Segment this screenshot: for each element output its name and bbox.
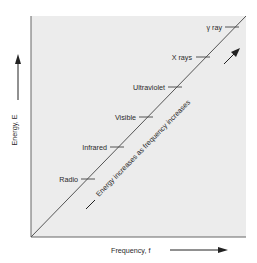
x-axis-label: Frequency, f — [111, 246, 150, 255]
energy-frequency-diagram: Radio Infrared Visible Ultraviolet X ray… — [0, 0, 257, 263]
y-axis-label: Energy, E — [10, 114, 19, 145]
y-axis-arrow-icon — [15, 54, 21, 100]
band-label-radio: Radio — [59, 175, 78, 184]
band-label-ultraviolet: Ultraviolet — [133, 83, 165, 92]
band-label-visible: Visible — [115, 113, 136, 122]
x-axis-arrow-icon — [170, 247, 228, 253]
band-label-x-rays: X rays — [172, 53, 193, 62]
band-label-infrared: Infrared — [82, 143, 107, 152]
band-label-gamma-ray: γ ray — [206, 23, 222, 32]
